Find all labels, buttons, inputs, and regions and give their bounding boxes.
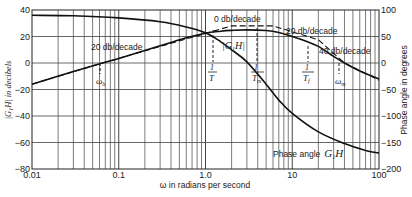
y-tick-label-left: −40 <box>15 111 30 121</box>
marker-omega-h: ωh <box>96 63 105 87</box>
y-tick-label-left: 0 <box>25 58 30 68</box>
y-tick-label-right: 0 <box>381 58 386 68</box>
y-tick-label-left: −20 <box>15 85 30 95</box>
y-tick-label-right: 100 <box>381 5 396 15</box>
y-tick-label-right: −50 <box>381 85 396 95</box>
svg-text:ωh: ωh <box>96 76 105 87</box>
annotation-40db: 40 db/decade <box>319 46 371 56</box>
y-tick-label-left: −80 <box>15 164 30 174</box>
svg-text:T: T <box>209 73 215 83</box>
marker-1-over-Tf: 1 Tf <box>302 46 314 84</box>
svg-text:Tf: Tf <box>303 73 311 84</box>
gain-curve-label: |G1H| <box>222 40 245 52</box>
svg-text:Tm: Tm <box>252 73 262 84</box>
y-axis-title-left: |G1H| in decibels <box>3 60 14 119</box>
y-tick-label-left: 20 <box>20 32 30 42</box>
y-tick-label-right: −200 <box>381 164 401 174</box>
annotation-20db-right: 20 db/decade <box>286 26 338 36</box>
y-tick-label-right: 50 <box>381 32 391 42</box>
annotation-0db: 0 db/decade <box>214 14 261 24</box>
y-axis-title-right: Phase angle in degrees <box>399 45 409 134</box>
x-tick-label: 1.0 <box>199 170 212 180</box>
y-tick-label-left: −60 <box>15 138 30 148</box>
x-tick-label: 10 <box>287 170 297 180</box>
bode-plot: 0.010.11.01010040200−20−40−60−80100500−5… <box>0 0 412 197</box>
svg-text:1: 1 <box>210 63 214 72</box>
svg-text:1: 1 <box>254 63 258 72</box>
axis-ticks: 0.010.11.01010040200−20−40−60−80100500−5… <box>15 5 402 180</box>
x-tick-label: 0.1 <box>112 170 125 180</box>
annotation-20db-left: 20 db/decade <box>91 42 143 52</box>
y-tick-label-right: −150 <box>381 138 401 148</box>
svg-text:1: 1 <box>305 63 309 72</box>
x-axis-title: ω in radians per second <box>160 180 251 190</box>
y-tick-label-left: 40 <box>20 5 30 15</box>
